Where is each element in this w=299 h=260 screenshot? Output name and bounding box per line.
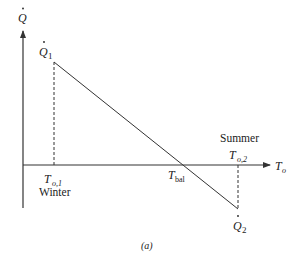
svg-text:1: 1 (48, 51, 53, 61)
load-line (54, 62, 238, 209)
to2-label: T o,2 (229, 148, 247, 164)
svg-text:o,2: o,2 (237, 155, 247, 164)
summer-label: Summer (220, 132, 259, 144)
y-axis-label: Q (18, 8, 27, 25)
svg-text:2: 2 (242, 225, 247, 235)
svg-text:Q: Q (39, 45, 48, 59)
svg-text:T: T (229, 148, 237, 162)
q1-label: Q 1 (39, 41, 53, 61)
svg-text:o: o (282, 166, 286, 175)
svg-text:bal: bal (175, 175, 186, 184)
heating-load-diagram: Q Q 1 T o,1 Winter T bal Summer T o,2 T … (0, 0, 299, 260)
q2-label: Q 2 (233, 215, 247, 235)
winter-label: Winter (39, 186, 71, 198)
svg-text:Q: Q (233, 219, 242, 233)
x-axis-label: T o (275, 159, 286, 175)
figure-caption: (a) (141, 240, 153, 252)
tbal-label: T bal (168, 168, 186, 184)
svg-text:T: T (44, 172, 52, 186)
svg-text:Q: Q (18, 11, 27, 25)
